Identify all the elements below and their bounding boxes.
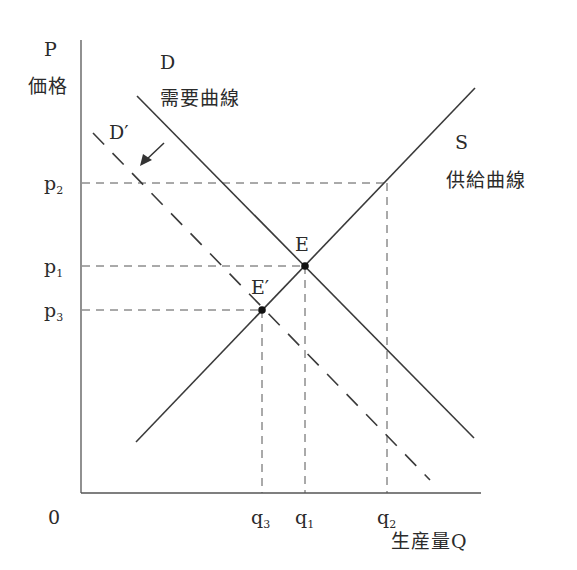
shift-left-arrow-icon: [140, 143, 164, 166]
supply-symbol: S: [455, 133, 468, 152]
demand-label: 需要曲線: [160, 89, 240, 108]
supply-label: 供給曲線: [446, 171, 526, 190]
price-tick-p1: p1: [44, 257, 63, 279]
equilibrium-label-e-prime: E′: [251, 278, 269, 297]
y-axis-label: 価格: [28, 77, 68, 96]
quantity-tick-q1: q1: [295, 508, 314, 530]
price-tick-p3: p3: [44, 301, 63, 323]
origin-label: 0: [48, 508, 60, 527]
shifted-demand-symbol: D′: [109, 123, 129, 142]
price-tick-p2: p2: [44, 174, 63, 196]
quantity-tick-q3: q3: [251, 508, 270, 530]
equilibrium-point-e-prime: [258, 306, 266, 314]
x-axis-label: 生産量Q: [391, 532, 468, 551]
demand-symbol: D: [160, 53, 175, 72]
diagram-canvas: [0, 0, 577, 570]
equilibrium-point-e: [301, 262, 309, 270]
quantity-tick-q2: q2: [377, 508, 396, 530]
y-axis-symbol: P: [44, 40, 57, 59]
equilibrium-label-e: E: [295, 235, 309, 254]
